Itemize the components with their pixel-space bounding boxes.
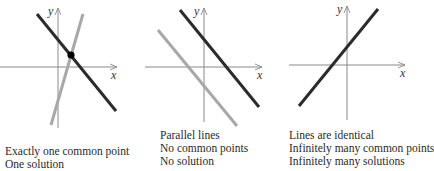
dark-line <box>180 10 259 107</box>
y-axis-label: y <box>47 4 54 18</box>
x-axis-label: x <box>399 66 406 80</box>
identical-line <box>299 9 378 106</box>
caption-line: Lines are identical <box>289 129 434 142</box>
dark-line <box>37 14 116 111</box>
caption-line: Parallel lines <box>160 129 248 142</box>
panel-no-solution-graph: y x <box>145 4 263 126</box>
caption-line: No solution <box>160 155 248 168</box>
caption-line: No common points <box>160 142 248 155</box>
x-axis-label: x <box>110 68 117 82</box>
x-axis-label: x <box>256 68 263 82</box>
light-line <box>158 30 237 126</box>
caption-line: Infinitely many common points <box>289 142 434 155</box>
panel-one-solution-graph: y x <box>0 4 117 128</box>
panel-infinite-solutions-graph: y x <box>289 2 406 120</box>
intersection-point <box>67 51 74 58</box>
caption-line: Infinitely many solutions <box>289 155 434 168</box>
caption-one-solution: Exactly one common point One solution <box>5 145 129 171</box>
caption-infinite-solutions: Lines are identical Infinitely many comm… <box>289 129 434 168</box>
caption-line: One solution <box>5 158 129 171</box>
light-line <box>51 14 83 125</box>
y-axis-label: y <box>336 2 343 16</box>
caption-line: Exactly one common point <box>5 145 129 158</box>
y-axis-label: y <box>193 4 200 18</box>
caption-no-solution: Parallel lines No common points No solut… <box>160 129 248 168</box>
